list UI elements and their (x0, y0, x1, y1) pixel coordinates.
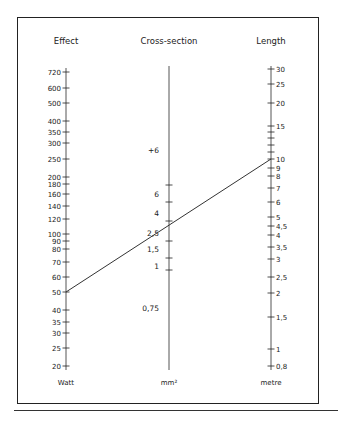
tick-label-length: 3 (276, 256, 280, 264)
tick-label-effect: 30 (52, 330, 61, 338)
tick-label-effect: 300 (48, 140, 61, 148)
tick-label-length: 25 (276, 81, 285, 89)
tick-label-effect: 25 (52, 345, 61, 353)
tick-label-length: 5 (276, 214, 280, 222)
column-title-length: Length (256, 36, 285, 46)
tick-label-length: 1 (276, 346, 280, 354)
tick-label-effect: 500 (48, 100, 61, 108)
tick-label-length: 10 (276, 156, 285, 164)
column-title-effect: Effect (54, 36, 79, 46)
tick-label-length: 8 (276, 173, 280, 181)
tick-label-effect: 600 (48, 85, 61, 93)
tick-label-effect: 35 (52, 319, 61, 327)
column-unit-length: metre (261, 379, 282, 387)
tick-label-length: 2,5 (276, 274, 287, 282)
tick-label-effect: 20 (52, 363, 61, 371)
value-label-cross-section: 6 (154, 190, 159, 199)
value-label-cross-section: 1 (154, 262, 159, 271)
tick-label-effect: 160 (48, 191, 61, 199)
tick-label-length: 9 (276, 165, 280, 173)
tick-label-effect: 250 (48, 156, 61, 164)
tick-label-length: 6 (276, 199, 281, 207)
tick-label-length: 2 (276, 290, 280, 298)
value-label-cross-section: +6 (148, 146, 159, 155)
tick-label-effect: 70 (52, 259, 61, 267)
tick-label-length: 30 (276, 66, 285, 74)
tick-label-effect: 90 (52, 238, 61, 246)
value-label-cross-section: 4 (154, 209, 159, 218)
tick-label-effect: 140 (48, 203, 61, 211)
tick-label-length: 7 (276, 185, 280, 193)
tick-label-length: 1,5 (276, 314, 287, 322)
column-unit-cross-section: mm² (161, 379, 178, 387)
value-label-cross-section: 0,75 (142, 304, 159, 313)
column-unit-effect: Watt (58, 379, 75, 387)
tick-label-effect: 720 (48, 69, 61, 77)
tick-label-effect: 50 (52, 289, 61, 297)
tick-label-effect: 80 (52, 246, 61, 254)
column-title-cross-section: Cross-section (141, 36, 198, 46)
tick-label-effect: 120 (48, 216, 61, 224)
tick-label-length: 4,5 (276, 223, 287, 231)
tick-label-length: 0,8 (276, 363, 287, 371)
tick-label-effect: 400 (48, 118, 61, 126)
tick-label-effect: 180 (48, 181, 61, 189)
tick-label-effect: 60 (52, 274, 61, 282)
nomogram: EffectWatt720600500400350300250200180160… (0, 0, 338, 426)
tick-label-effect: 40 (52, 307, 61, 315)
tick-label-effect: 350 (48, 129, 61, 137)
tick-label-length: 4 (276, 232, 281, 240)
tick-label-length: 15 (276, 123, 285, 131)
tick-label-length: 20 (276, 100, 285, 108)
value-label-cross-section: 1,5 (147, 245, 159, 254)
tick-label-length: 3,5 (276, 244, 287, 252)
